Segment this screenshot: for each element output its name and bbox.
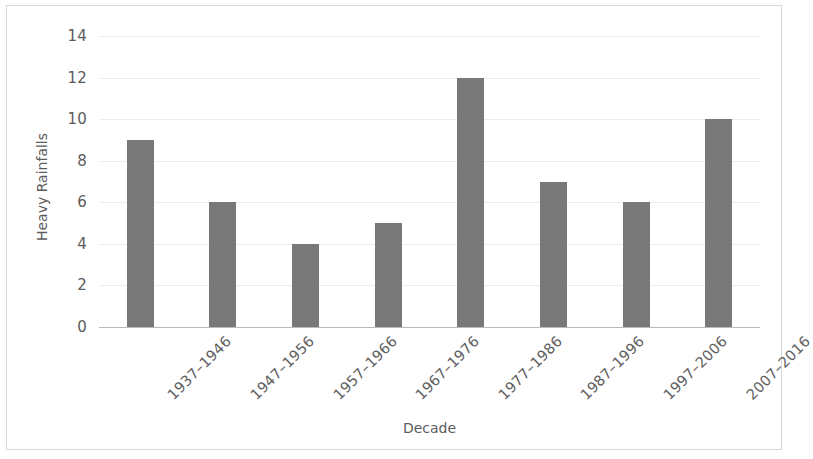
x-tick-label: 1987–1996 [578,333,648,403]
bar [375,223,402,327]
x-tick-label: 1947–1956 [247,333,317,403]
bar [705,119,732,327]
y-tick-label: 2 [15,276,87,294]
bar-slot [182,36,265,327]
x-axis-title: Decade [99,420,760,436]
y-tick-label: 6 [15,193,87,211]
bar [292,244,319,327]
x-axis-tick-labels: 1937–19461947–19561957–19661967–19761977… [99,327,760,331]
bar-slot [512,36,595,327]
y-tick-label: 8 [15,152,87,170]
bars-layer [99,36,760,327]
bar-slot [430,36,513,327]
y-tick-label: 14 [15,27,87,45]
x-tick-label: 1977–1986 [495,333,565,403]
x-tick-label: 1937–1946 [165,333,235,403]
plot-area [99,36,760,327]
y-tick-label: 0 [15,318,87,336]
bar-slot [677,36,760,327]
y-tick-label: 10 [15,110,87,128]
bar-slot [595,36,678,327]
bar-slot [264,36,347,327]
x-tick-label: 1957–1966 [330,333,400,403]
bar [540,182,567,328]
bar [457,78,484,327]
bar [209,202,236,327]
x-tick-label: 1997–2006 [660,333,730,403]
bar [623,202,650,327]
y-tick-label: 12 [15,69,87,87]
bar-slot [347,36,430,327]
x-tick-label: 2007–2016 [743,333,813,403]
bar [127,140,154,327]
bar-slot [99,36,182,327]
y-tick-label: 4 [15,235,87,253]
x-tick-label: 1967–1976 [412,333,482,403]
